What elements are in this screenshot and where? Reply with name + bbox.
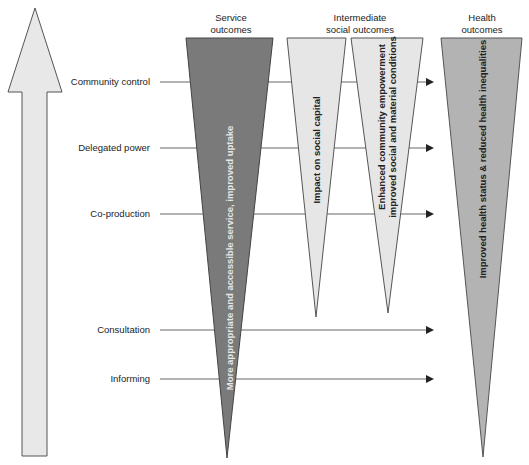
header-line: Intermediate	[305, 12, 415, 24]
health-outcomes-header: Health outcomes	[447, 12, 517, 36]
health-wedge-text: Improved health status & reduced health …	[477, 40, 488, 279]
level-label-community-control: Community control	[71, 76, 150, 87]
empowerment-wedge-text-line1: Enhanced community empowerment	[376, 43, 387, 210]
social-capital-wedge-text: Impact on social capital	[311, 96, 322, 203]
level-label-consultation: Consultation	[97, 324, 150, 335]
arrowheads	[426, 78, 434, 383]
participation-ladder-arrow-icon	[8, 8, 62, 456]
header-line: outcomes	[447, 24, 517, 36]
header-line: social outcomes	[305, 24, 415, 36]
header-line: Service	[196, 12, 266, 24]
intermediate-outcomes-header: Intermediate social outcomes	[305, 12, 415, 36]
level-label-co-production: Co-production	[90, 208, 150, 219]
arrowhead-icon	[426, 78, 434, 86]
arrowhead-icon	[426, 144, 434, 152]
arrowhead-icon	[426, 210, 434, 218]
service-wedge-text: More appropriate and accessible service,…	[224, 126, 235, 391]
header-line: Health	[447, 12, 517, 24]
arrowhead-icon	[426, 326, 434, 334]
diagram-canvas: More appropriate and accessible service,…	[0, 0, 529, 465]
service-outcomes-header: Service outcomes	[196, 12, 266, 36]
level-label-delegated-power: Delegated power	[78, 142, 150, 153]
arrowhead-icon	[426, 375, 434, 383]
level-label-informing: Informing	[110, 373, 150, 384]
empowerment-wedge-text-line2: improved social and material conditions	[387, 36, 398, 218]
header-line: outcomes	[196, 24, 266, 36]
